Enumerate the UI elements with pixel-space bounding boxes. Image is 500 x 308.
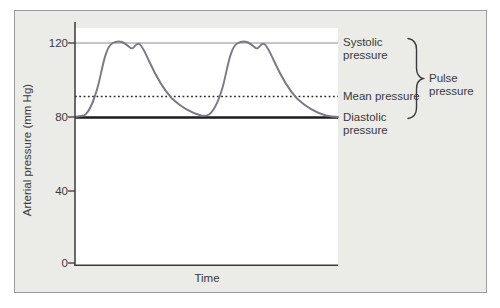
x-axis-title: Time [167, 271, 247, 285]
y-axis-title: Arterial pressure (mm Hg) [20, 70, 34, 230]
pulse-pressure-label-line2: pressure [429, 85, 474, 98]
pulse-pressure-label-line1: Pulse [429, 72, 474, 85]
figure: 120 80 40 0 Arterial pressure (mm Hg) Ti… [0, 0, 500, 308]
systolic-pressure-label: Systolic pressure [343, 36, 388, 62]
y-tick-label-0: 0 [38, 256, 68, 270]
y-tick-label-80: 80 [38, 110, 68, 124]
systolic-pressure-label-line2: pressure [343, 49, 388, 62]
mean-pressure-label: Mean pressure [343, 90, 420, 103]
pulse-pressure-brace [408, 39, 423, 119]
y-tick-label-40: 40 [38, 184, 68, 198]
systolic-pressure-label-line1: Systolic [343, 36, 388, 49]
diastolic-pressure-label: Diastolic pressure [343, 111, 388, 137]
chart-canvas [0, 0, 500, 308]
pressure-waveform [76, 42, 338, 118]
diastolic-pressure-label-line2: pressure [343, 124, 388, 137]
diastolic-pressure-label-line1: Diastolic [343, 111, 388, 124]
pulse-pressure-label: Pulse pressure [429, 72, 474, 98]
y-tick-label-120: 120 [38, 36, 68, 50]
